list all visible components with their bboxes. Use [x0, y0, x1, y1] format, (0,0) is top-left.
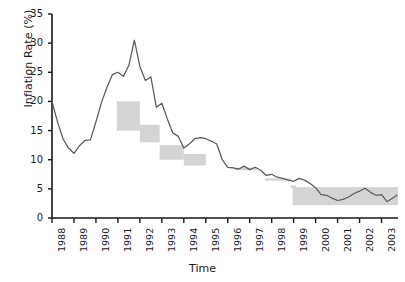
target-box-1992 — [140, 125, 160, 142]
series-line-inflation-rate — [52, 40, 397, 201]
plot-area — [0, 0, 405, 282]
target-box-1994 — [184, 154, 206, 166]
target-bands-group — [117, 101, 398, 205]
series-lines-group — [52, 40, 397, 201]
inflation-rate-chart: Inflation Rate (%) Time 05101520253035 1… — [0, 0, 405, 282]
target-box-1993 — [160, 145, 184, 160]
target-box-1991 — [117, 101, 140, 130]
